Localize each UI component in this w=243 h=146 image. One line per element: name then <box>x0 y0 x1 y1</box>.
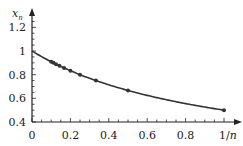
y-tick-label: 0.6 <box>9 92 27 105</box>
tick-labels: 0.40.60.811.200.20.40.60.81/n <box>9 21 237 142</box>
chart: 0.40.60.811.200.20.40.60.81/n xn <box>0 0 243 146</box>
data-curve <box>32 51 224 110</box>
x-tick-label: 0 <box>29 129 36 142</box>
data-point <box>68 69 72 73</box>
data-point <box>126 88 130 92</box>
x-tick-label: 0.2 <box>62 129 80 142</box>
data-points <box>49 60 226 112</box>
y-axis-arrow-icon <box>29 8 35 16</box>
x-tick-label: 0.8 <box>177 129 195 142</box>
data-point <box>222 108 226 112</box>
data-point <box>62 66 66 70</box>
data-point <box>94 79 98 83</box>
y-tick-label: 1 <box>19 45 26 58</box>
y-tick-label: 1.2 <box>9 21 27 34</box>
curve-line <box>32 51 224 110</box>
y-axis-label: xn <box>12 7 23 22</box>
x-axis-arrow-icon <box>234 119 242 125</box>
x-tick-label: 0.4 <box>100 129 118 142</box>
data-point <box>49 60 53 64</box>
x-axis-label: 1/n <box>219 129 237 142</box>
data-point <box>78 73 82 77</box>
y-tick-label: 0.4 <box>9 116 27 129</box>
x-tick-label: 0.6 <box>138 129 156 142</box>
data-point <box>57 64 61 68</box>
y-tick-label: 0.8 <box>9 69 27 82</box>
